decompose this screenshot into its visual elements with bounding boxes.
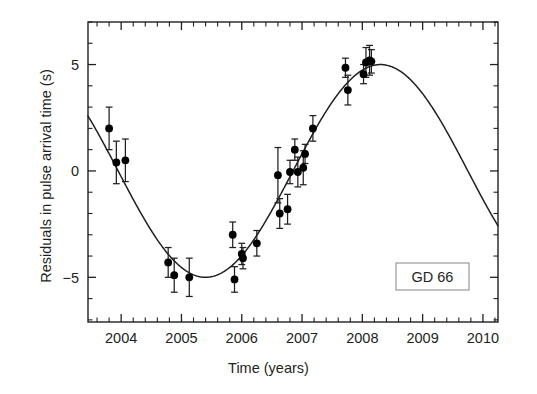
data-point [229, 231, 237, 239]
data-point [112, 159, 120, 167]
data-point [291, 146, 299, 154]
x-tick-label: 2006 [226, 330, 258, 346]
plot-canvas: 2004200520062007200820092010 −505 GD 66 [0, 0, 537, 394]
data-point [344, 86, 352, 94]
x-tick-label: 2007 [286, 330, 318, 346]
y-axis-title: Residuals in pulse arrival time (s) [38, 26, 54, 326]
x-axis-tick-labels: 2004200520062007200820092010 [105, 330, 499, 346]
data-point [299, 164, 307, 172]
data-point [284, 205, 292, 213]
data-point [342, 64, 350, 72]
data-point [274, 171, 282, 179]
data-point [286, 168, 294, 176]
data-point [360, 70, 368, 78]
annotation-label: GD 66 [412, 269, 454, 285]
data-point [301, 150, 309, 158]
data-point [164, 259, 172, 267]
x-tick-label: 2004 [105, 330, 137, 346]
data-point [367, 57, 375, 65]
data-point [253, 239, 261, 247]
data-point [121, 156, 129, 164]
x-tick-label: 2009 [406, 330, 438, 346]
data-points [105, 56, 375, 283]
x-axis-title: Time (years) [0, 360, 537, 376]
x-tick-label: 2008 [346, 330, 378, 346]
y-tick-label: 5 [71, 57, 79, 73]
data-point [239, 254, 247, 262]
x-tick-label: 2005 [165, 330, 197, 346]
data-point [276, 210, 284, 218]
y-tick-label: −5 [62, 270, 79, 286]
data-point [185, 273, 193, 281]
chart-figure: Residuals in pulse arrival time (s) Time… [0, 0, 537, 394]
annotation-gd66: GD 66 [396, 263, 469, 290]
y-axis-tick-labels: −505 [62, 57, 79, 286]
data-point [231, 276, 239, 284]
data-point [309, 124, 317, 132]
x-tick-label: 2010 [467, 330, 499, 346]
data-point [170, 271, 178, 279]
data-point [105, 124, 113, 132]
y-tick-label: 0 [71, 163, 79, 179]
